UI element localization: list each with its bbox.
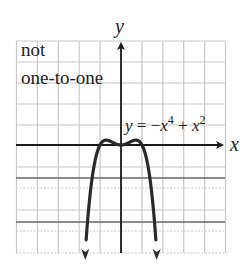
equation-label: y = −x4 + x2: [123, 113, 205, 135]
equation-plus: +: [174, 116, 192, 135]
curve-arrow-left-icon: [81, 249, 89, 260]
equation-equals: =: [133, 116, 151, 135]
annotation-line-1: not: [21, 39, 46, 60]
x-axis-label: x: [229, 133, 239, 155]
equation-exp2: 2: [199, 113, 205, 127]
equation-minus: −: [151, 116, 161, 135]
function-graph: y x not one-to-one y = −x4 + x2: [0, 0, 246, 268]
equation-lhs: y: [123, 116, 133, 135]
curve-arrow-right-icon: [153, 249, 161, 260]
annotation-line-2: one-to-one: [21, 67, 103, 88]
y-axis-label: y: [113, 15, 124, 38]
